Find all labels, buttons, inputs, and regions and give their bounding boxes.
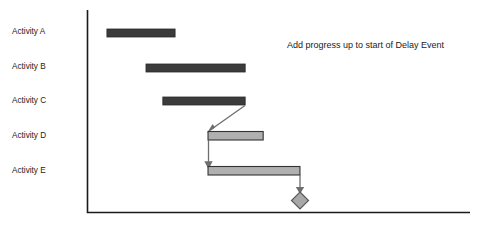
annotation-note: Add progress up to start of Delay Event bbox=[287, 40, 445, 50]
gantt-chart-canvas: Activity A Activity B Activity C Activit… bbox=[0, 0, 482, 237]
gantt-bar-activity-d[interactable] bbox=[208, 132, 263, 141]
row-label-activity-a: Activity A bbox=[12, 27, 46, 36]
link-activity-c-to-activity-d bbox=[211, 106, 245, 130]
gantt-bar-activity-e[interactable] bbox=[208, 167, 300, 176]
gantt-bar-activity-b[interactable] bbox=[146, 64, 245, 72]
gantt-bar-activity-c[interactable] bbox=[163, 97, 245, 105]
delay-event-milestone-marker[interactable] bbox=[292, 192, 309, 209]
row-label-activity-e: Activity E bbox=[12, 166, 46, 175]
gantt-chart-figure: Activity A Activity B Activity C Activit… bbox=[0, 0, 482, 237]
gantt-bar-activity-a[interactable] bbox=[107, 29, 175, 37]
row-label-activity-b: Activity B bbox=[12, 62, 46, 71]
row-label-activity-c: Activity C bbox=[12, 96, 46, 105]
row-label-activity-d: Activity D bbox=[12, 131, 46, 140]
